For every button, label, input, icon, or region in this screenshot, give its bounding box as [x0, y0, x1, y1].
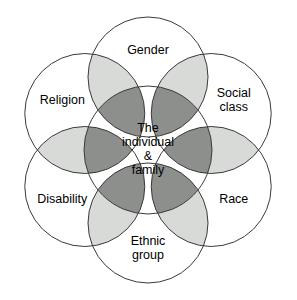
node-label-ethnic-group: Ethnicgroup	[131, 234, 166, 262]
center-label-line: family	[132, 163, 165, 177]
center-label-line: individual	[122, 135, 174, 149]
label-line: Gender	[127, 43, 169, 57]
node-label-social-class: Socialclass	[217, 86, 251, 114]
venn-svg: GenderSocialclassRaceEthnicgroupDisabili…	[0, 0, 297, 300]
label-line: group	[132, 248, 164, 262]
label-line: Social	[217, 86, 251, 100]
label-line: Ethnic	[131, 234, 166, 248]
node-label-race: Race	[219, 192, 248, 206]
label-line: Religion	[40, 93, 85, 107]
venn-diagram: GenderSocialclassRaceEthnicgroupDisabili…	[0, 0, 297, 300]
center-label-line: &	[144, 149, 153, 163]
label-line: class	[219, 100, 247, 114]
node-label-religion: Religion	[40, 93, 85, 107]
label-line: Disability	[37, 192, 88, 206]
label-line: Race	[219, 192, 248, 206]
node-label-disability: Disability	[37, 192, 88, 206]
node-label-gender: Gender	[127, 43, 169, 57]
center-label-line: The	[137, 121, 159, 135]
